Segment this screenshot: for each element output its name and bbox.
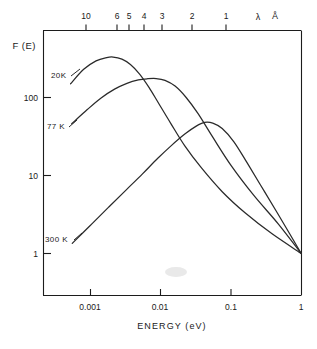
figure-container: 10 6 5 4 3 2 1 λ Å 100 10 1 F (E) 0.001 … [0, 0, 317, 349]
y-tick-label-10: 10 [29, 171, 39, 181]
curve-20K [71, 57, 302, 254]
leader-line-77K [69, 120, 77, 127]
curve-77K [72, 78, 302, 253]
top-tick-label-5: 5 [127, 11, 132, 21]
x-tick-label-0.1: 0.1 [225, 302, 237, 312]
y-tick-label-100: 100 [24, 93, 38, 103]
top-tick-label-1: 1 [224, 11, 229, 21]
top-tick-label-10: 10 [81, 11, 91, 21]
data-curves [71, 57, 302, 254]
series-label-77K: 77 K [47, 122, 65, 131]
lambda-symbol-label: λ [256, 12, 261, 22]
top-tick-label-3: 3 [160, 11, 165, 21]
x-tick-label-1: 1 [299, 302, 304, 312]
series-label-300K: 300 K [45, 235, 68, 244]
top-axis: 10 6 5 4 3 2 1 λ Å [43, 11, 301, 31]
scan-artifact [165, 267, 187, 277]
x-tick-label-0.01: 0.01 [152, 302, 169, 312]
series-label-20K: 20K [51, 71, 67, 80]
x-axis-title: ENERGY (eV) [137, 321, 206, 331]
plot-frame [43, 31, 302, 296]
curve-300K [72, 122, 301, 253]
top-tick-label-6: 6 [115, 11, 120, 21]
top-tick-label-4: 4 [142, 11, 147, 21]
x-tick-label-0.001: 0.001 [79, 302, 101, 312]
series-annotations: 20K 77 K 300 K [45, 69, 82, 244]
plot-svg: 10 6 5 4 3 2 1 λ Å 100 10 1 F (E) 0.001 … [0, 0, 317, 349]
leader-line-300K [74, 233, 82, 240]
top-tick-label-2: 2 [190, 11, 195, 21]
y-tick-label-1: 1 [33, 249, 38, 259]
angstrom-unit-label: Å [272, 11, 278, 21]
y-axis-title: F (E) [12, 40, 36, 51]
y-axis: 100 10 1 F (E) [12, 40, 51, 259]
